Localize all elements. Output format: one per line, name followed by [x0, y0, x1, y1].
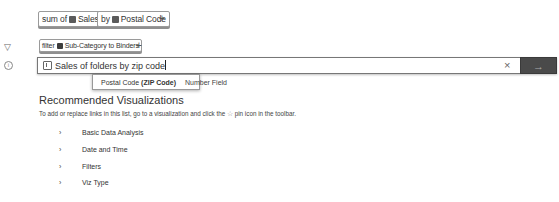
dimension-field-icon [112, 16, 119, 23]
filter-pill[interactable]: filter Sub-Category to Binders [39, 39, 142, 52]
category-filters[interactable]: › Filters [59, 163, 101, 170]
text-caret [165, 60, 166, 70]
dimension-prefix: by [101, 14, 110, 24]
measure-field-icon [69, 16, 76, 23]
info-icon[interactable]: i [4, 61, 13, 70]
recommendations-title: Recommended Visualizations [39, 94, 184, 106]
filter-field-icon [57, 43, 63, 49]
measure-pill[interactable]: sum of Sales [38, 11, 103, 27]
chevron-right-icon: › [59, 146, 82, 153]
category-basic-data-analysis[interactable]: › Basic Data Analysis [59, 129, 143, 136]
search-input[interactable]: Sales of folders by zip code × → [37, 57, 557, 74]
add-filter-button[interactable]: + [136, 40, 142, 51]
chevron-right-icon: › [59, 163, 82, 170]
suggestion-alias: (ZIP Code) [141, 79, 176, 86]
measure-field: Sales [78, 14, 99, 24]
category-date-and-time[interactable]: › Date and Time [59, 146, 128, 153]
suggestion-name: Postal Code [101, 79, 139, 86]
clear-search-button[interactable]: × [504, 59, 510, 71]
add-shelf-button[interactable]: + [159, 13, 165, 24]
measure-prefix: sum of [42, 14, 67, 24]
submit-search-button[interactable]: → [520, 57, 557, 74]
filter-suffix: to Binders [108, 42, 139, 49]
filter-icon: ▽ [4, 42, 11, 52]
recommendations-subtitle: To add or replace links in this list, go… [39, 110, 296, 118]
chevron-right-icon: › [59, 129, 82, 136]
search-text[interactable]: Sales of folders by zip code [55, 60, 166, 71]
category-viz-type[interactable]: › Viz Type [59, 179, 109, 186]
suggestion-type: Number Field [185, 79, 227, 86]
filter-prefix: filter [42, 42, 55, 49]
pin-icon: ☆ [227, 110, 233, 117]
chevron-right-icon: › [59, 179, 82, 186]
filter-field: Sub-Category [65, 42, 107, 49]
message-icon [43, 61, 52, 70]
field-suggestion[interactable]: Postal Code (ZIP Code) Number Field [92, 74, 200, 90]
arrow-right-icon: → [533, 60, 544, 72]
